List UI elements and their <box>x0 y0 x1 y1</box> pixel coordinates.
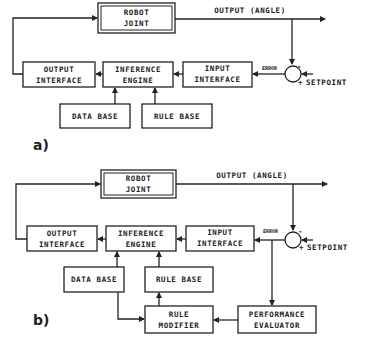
rule-modifier-label-1-b: RULE <box>169 310 189 319</box>
input-interface-label-2: INTERFACE <box>194 75 240 84</box>
data-base-label: DATA BASE <box>72 112 118 121</box>
minus-sign: - <box>297 62 302 71</box>
output-interface-label-2-b: INTERFACE <box>39 240 85 249</box>
setpoint-label-b: SETPOINT <box>307 243 348 252</box>
error-label: ERROR <box>262 65 278 71</box>
rule-base-label-b: RULE BASE <box>156 275 202 284</box>
inference-engine-label-1: INFERENCE <box>115 65 161 74</box>
output-interface-label-1: OUTPUT <box>44 65 75 74</box>
minus-sign-b: - <box>298 227 303 236</box>
diagram-a-tag: a) <box>33 137 49 153</box>
diagram-a-labels: ROBOT JOINT OUTPUT (ANGLE) OUTPUT INTERF… <box>33 6 347 153</box>
performance-evaluator-label-1-b: PERFORMANCE <box>249 310 305 319</box>
inference-engine-label-2: ENGINE <box>123 76 154 85</box>
input-interface-label-1-b: INPUT <box>207 228 233 237</box>
database-to-modifier-arrow-b <box>118 292 144 319</box>
robot-joint-label-1-b: ROBOT <box>126 174 152 183</box>
inference-engine-label-1-b: INFERENCE <box>118 229 164 238</box>
input-interface-label-1: INPUT <box>205 64 231 73</box>
robot-joint-label-1: ROBOT <box>124 8 150 17</box>
rule-modifier-label-2-b: MODIFIER <box>159 321 200 330</box>
fuzzy-control-diagrams: ROBOT JOINT OUTPUT (ANGLE) OUTPUT INTERF… <box>0 0 366 345</box>
robot-joint-label-2: JOINT <box>124 19 150 28</box>
output-angle-label: OUTPUT (ANGLE) <box>214 6 286 15</box>
output-interface-label-2: INTERFACE <box>36 76 82 85</box>
output-angle-label-b: OUTPUT (ANGLE) <box>216 171 288 180</box>
rule-base-label: RULE BASE <box>154 112 200 121</box>
setpoint-label: SETPOINT <box>306 78 347 87</box>
data-base-label-b: DATA BASE <box>71 275 117 284</box>
diagram-b <box>16 170 327 333</box>
performance-evaluator-label-2-b: EVALUATOR <box>254 321 300 330</box>
input-interface-label-2-b: INTERFACE <box>197 239 243 248</box>
robot-joint-label-2-b: JOINT <box>126 185 152 194</box>
plus-sign-b: + <box>299 243 304 252</box>
output-interface-label-1-b: OUTPUT <box>47 229 78 238</box>
plus-sign: + <box>298 78 303 87</box>
diagram-b-tag: b) <box>33 312 49 328</box>
inference-engine-label-2-b: ENGINE <box>126 240 157 249</box>
error-label-b: ERROR <box>263 228 279 234</box>
